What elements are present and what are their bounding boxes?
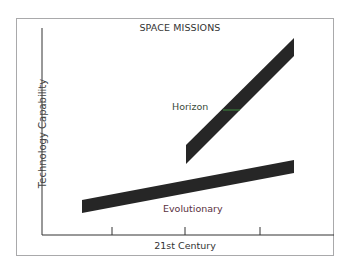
y-axis-label: Technology Capability	[37, 74, 48, 194]
x-axis-label: 21st Century	[130, 240, 240, 251]
evolutionary-label: Evolutionary	[163, 203, 223, 214]
horizon-label: Horizon	[172, 101, 208, 112]
diagram-title: SPACE MISSIONS	[120, 22, 240, 33]
diagram-graphics	[0, 0, 353, 270]
